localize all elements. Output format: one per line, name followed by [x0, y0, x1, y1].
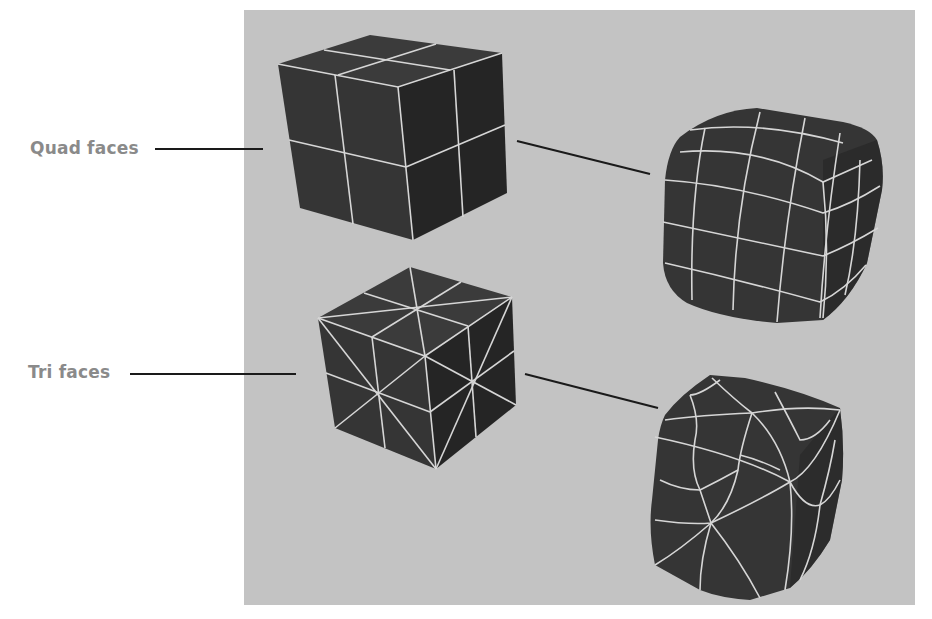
tri-cube-smoothed: [651, 375, 844, 600]
tri-cube: [318, 267, 516, 469]
quad-smooth-arrow-line: [517, 141, 650, 174]
tri-smooth-arrow-line: [525, 374, 658, 408]
quad-cube: [278, 35, 507, 240]
quad-cube-smoothed: [663, 108, 883, 323]
